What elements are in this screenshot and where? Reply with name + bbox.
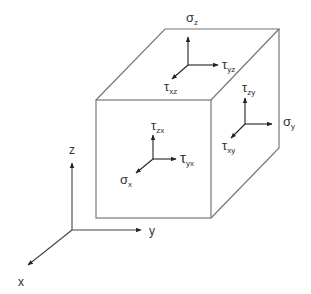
sigma-x-label: σx [120,172,132,189]
y-axis-label: y [149,224,155,238]
x-axis-arrow-icon [28,230,72,265]
stress-cube-diagram: z y x σz τyz τxz τzy σy τxy τzx τyx σx [0,0,311,294]
top-face-stresses [172,37,218,79]
sigma-z-label: σz [186,10,198,27]
front-face-stresses [136,135,176,173]
tau-yx-label: τyx [180,149,194,168]
tau-yz-label: τyz [222,57,235,74]
x-axis-label: x [18,275,24,289]
tau-xy-arrow-icon [231,124,245,138]
tau-zy-label: τzy [242,80,255,97]
tau-xz-label: τxz [164,79,177,96]
sigma-x-arrow-icon [136,159,153,173]
right-face-stresses [231,98,272,138]
z-axis-label: z [69,143,75,157]
tau-xy-label: τxy [222,138,235,155]
tau-xz-arrow-icon [172,65,188,79]
sigma-y-label: σy [283,114,295,131]
tau-zx-label: τzx [151,118,164,135]
